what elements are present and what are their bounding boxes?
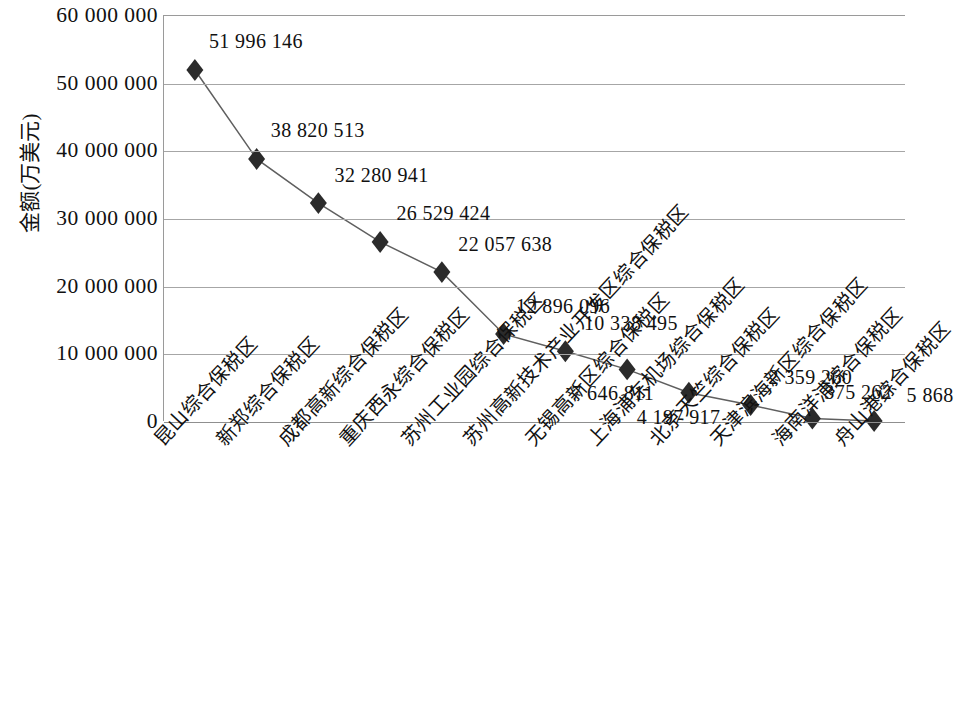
line-chart: 金额(万美元) 60 000 00050 000 00040 000 00030… — [0, 0, 923, 702]
x-axis-category-labels: 昆山综合保税区新郑综合保税区成都高新综合保税区重庆西永综合保税区苏州工业园综合保… — [0, 0, 923, 702]
